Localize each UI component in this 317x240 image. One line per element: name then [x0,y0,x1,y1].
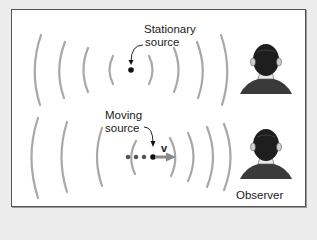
moving-source-label-line1: Moving [105,109,142,121]
source-trail-dots [126,155,147,160]
stationary-source-label-line2: source [145,36,180,48]
stationary-pointer-arrow [129,45,144,65]
moving-source-dot [150,154,156,160]
stationary-source-dot [128,67,134,73]
velocity-label: v [161,142,167,154]
stationary-source-label-line1: Stationary [144,23,196,35]
moving-source-label-line2: source [105,122,140,134]
observer-head-icon-top [240,44,292,94]
moving-pointer-arrow [144,127,156,147]
observer-head-icon-bottom [240,129,292,179]
observer-label: Observer [236,189,283,201]
